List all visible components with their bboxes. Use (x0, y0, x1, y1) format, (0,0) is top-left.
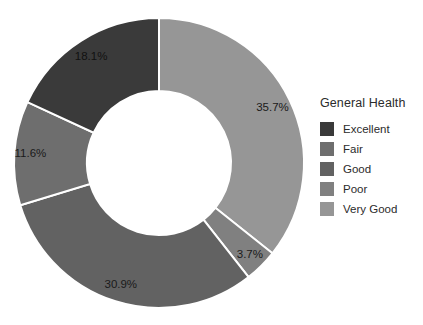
legend-item[interactable]: Excellent (320, 119, 423, 139)
legend-color-swatch (320, 142, 334, 156)
legend-color-swatch (320, 122, 334, 136)
slice-percentage-label: 18.1% (75, 50, 108, 62)
chart-root: 35.7%3.7%30.9%11.6%18.1% General Health … (0, 0, 423, 325)
legend-item-label: Excellent (343, 122, 390, 136)
slice-percentage-label: 30.9% (104, 278, 137, 290)
legend-color-swatch (320, 182, 334, 196)
legend-item-list: ExcellentFairGoodPoorVery Good (320, 119, 423, 219)
legend-item[interactable]: Poor (320, 179, 423, 199)
legend-item[interactable]: Very Good (320, 199, 423, 219)
legend-item[interactable]: Fair (320, 139, 423, 159)
slice-percentage-label: 11.6% (15, 147, 47, 159)
legend-item[interactable]: Good (320, 159, 423, 179)
slice-percentage-label: 3.7% (237, 248, 263, 260)
slice-percentage-label: 35.7% (256, 101, 289, 113)
legend-color-swatch (320, 202, 334, 216)
legend-item-label: Very Good (343, 202, 397, 216)
donut-chart-area: 35.7%3.7%30.9%11.6%18.1% (0, 0, 318, 325)
donut-chart-svg: 35.7%3.7%30.9%11.6%18.1% (0, 0, 318, 325)
legend-item-label: Good (343, 162, 371, 176)
legend-item-label: Poor (343, 182, 367, 196)
legend-title: General Health (320, 96, 423, 110)
legend-item-label: Fair (343, 142, 363, 156)
legend-color-swatch (320, 162, 334, 176)
legend: General Health ExcellentFairGoodPoorVery… (320, 96, 423, 219)
donut-slice[interactable] (159, 18, 304, 253)
donut-slice-group (14, 18, 304, 308)
